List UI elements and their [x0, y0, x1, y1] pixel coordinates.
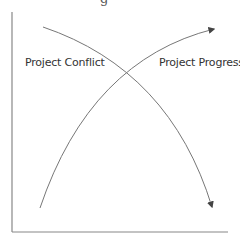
- conflict-curve: [43, 27, 212, 207]
- progress-label: Project Progress: [159, 56, 240, 69]
- conflict-label: Project Conflict: [25, 56, 105, 69]
- diagram-canvas: [0, 0, 240, 235]
